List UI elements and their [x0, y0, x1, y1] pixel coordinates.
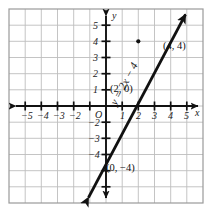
y-tick-label-3: 3 — [93, 53, 98, 63]
x-tick-label-4: 4 — [168, 111, 173, 121]
graph-figure: −5 −4 −3 −2 1 2 3 4 5 5 4 3 2 1 −2 −3 −4… — [0, 0, 215, 215]
coordinate-plane — [0, 0, 215, 215]
x-tick-label--4: −4 — [37, 111, 49, 121]
point-label-y-intercept: (0, −4) — [106, 163, 135, 174]
data-points — [136, 39, 140, 43]
point-label-upper-point: (4, 4) — [163, 41, 186, 52]
origin-label: O — [95, 110, 102, 120]
y-tick-label-2: 2 — [93, 69, 98, 79]
x-tick-label-1: 1 — [120, 111, 125, 121]
x-tick-label-5: 5 — [184, 111, 189, 121]
x-tick-label--3: −3 — [53, 111, 65, 121]
y-tick-label-1: 1 — [93, 85, 98, 95]
y-tick-label-5: 5 — [93, 21, 98, 31]
y-tick-label--3: −3 — [88, 134, 100, 144]
x-tick-label-2: 2 — [136, 111, 141, 121]
y-tick-label-4: 4 — [93, 37, 98, 47]
y-axis-label: y — [112, 11, 116, 21]
x-tick-label--2: −2 — [69, 111, 81, 121]
x-tick-label-3: 3 — [152, 111, 157, 121]
x-axis-label: x — [195, 108, 199, 118]
y-tick-label--4: −4 — [88, 150, 100, 160]
x-tick-label--5: −5 — [21, 111, 33, 121]
